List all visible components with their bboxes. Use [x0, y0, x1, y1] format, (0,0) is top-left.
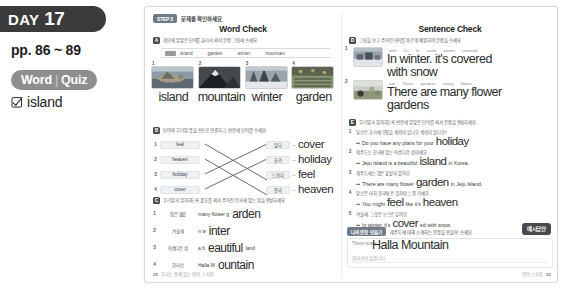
sentence-prefix: many flower g — [198, 211, 229, 217]
section-d-head: D 그림을 보고 주어진 단어를 바르게 배열하여 문장을 쓰세요. — [341, 37, 558, 44]
section-a-instruction: 네모에 알맞은 단어를 골라서 써서 문장 그림에 쓰세요. — [163, 37, 258, 44]
word-quiz-separator: | — [55, 73, 58, 87]
wordbank-word-4: mountain — [265, 51, 285, 56]
word-quiz-word: Word — [21, 73, 52, 87]
handwritten-answer: garden — [416, 176, 449, 188]
english-word-box[interactable]: feel — [160, 141, 200, 149]
writing-rule-line — [352, 262, 548, 263]
english-word-box[interactable]: heaven — [160, 156, 200, 164]
row-number: 1 — [347, 129, 353, 134]
row-number: 3 — [151, 245, 158, 250]
korean-meaning-box[interactable]: 휴가 — [266, 156, 290, 164]
section-c-head: C 우리말과 일치하도록 괄호를 써서 주어진 문자에 맞는 말을 완성하세요. — [145, 197, 341, 204]
my-sentence-box: 나의 문장 만들기 제주도에 대해 소개하는 문장을 만들어 쓰세요. Ther… — [347, 227, 553, 268]
sentence-check-title-wrap: Sentence Check — [341, 24, 558, 34]
quiz-checklist-item[interactable]: island — [11, 94, 62, 110]
sentence-prefix: Halla M — [198, 262, 215, 268]
handwritten-answer: feel — [387, 196, 404, 208]
section-a-head: A 네모에 알맞은 단어를 골라서 써서 문장 그림에 쓰세요. — [145, 37, 341, 44]
sentence-prefix: a b — [198, 245, 205, 251]
my-sentence-tag: 나의 문장 만들기 — [347, 227, 386, 236]
left-page-footer: 25 우리는 함께 읽는 영어 스피킹 — [153, 271, 214, 277]
handwritten-answer: Halla Mountain — [372, 238, 448, 252]
sentence-prefix: n w — [198, 228, 206, 234]
handwritten-answer: ountain — [218, 258, 254, 272]
day-number: 17 — [44, 8, 64, 30]
arrow-icon: ➡ — [356, 181, 360, 187]
sidebar: DAY 17 pp. 86 ~ 89 Word | Quiz island — [0, 0, 140, 288]
section-d-instruction: 그림을 보고 주어진 단어를 바르게 배열하여 문장을 쓰세요. — [359, 37, 462, 44]
korean-meaning-box[interactable]: 덮다 — [266, 141, 290, 149]
matching-row: 2 heaven 휴가 – holiday — [151, 154, 335, 165]
item-number: 1 — [152, 61, 155, 66]
korean-prompt: 당신은 휴가에 무엇을 계획이 있나요 계획이 있나요? — [356, 129, 447, 135]
matching-row: 4 cover 천국 – heaven — [151, 184, 335, 195]
row-number: 1 — [151, 211, 158, 216]
wordbank-word-1: island — [180, 51, 193, 56]
english-word-box[interactable]: cover — [160, 186, 200, 194]
picture-item: 1 island — [151, 62, 196, 104]
day-banner: DAY 17 — [0, 6, 106, 32]
word-quiz-badge[interactable]: Word | Quiz — [11, 70, 97, 90]
section-e: E 우리말과 일치하도록 빈칸에 알맞은 단어를 써서 문장을 완성하세요. 1… — [341, 119, 558, 229]
row-number: 5 — [347, 211, 353, 216]
word-check-title-wrap: Word Check — [145, 24, 341, 34]
flower-garden-photo — [353, 80, 383, 100]
page-number: 25 — [546, 272, 551, 277]
handwritten-answer: holiday — [436, 135, 469, 147]
section-d-marker: D — [349, 37, 356, 44]
english-word-box[interactable]: holiday — [160, 171, 200, 179]
section-e-head: E 우리말과 일치하도록 빈칸에 알맞은 단어를 써서 문장을 완성하세요. — [341, 119, 558, 126]
sentence-check-column: Sentence Check D 그림을 보고 주어진 단어를 바르게 배열하여… — [341, 7, 558, 282]
handwritten-answer-line2: gardens — [387, 99, 502, 112]
my-sentence-instruction: 제주도에 대해 소개하는 문장을 만들어 쓰세요. — [390, 229, 473, 235]
step-korean-label: 문제를 확인하세요 — [181, 15, 223, 23]
korean-meaning-box[interactable]: 천국 — [266, 186, 290, 194]
my-sentence-head: 나의 문장 만들기 제주도에 대해 소개하는 문장을 만들어 쓰세요. — [347, 227, 553, 236]
word-check-column: STEP 3 문제를 확인하세요 Word Check A 네모에 알맞은 단어… — [145, 7, 341, 282]
wordbank-word-3: winter — [238, 51, 251, 56]
page-number: 25 — [153, 272, 158, 277]
item-number: 3 — [246, 61, 249, 66]
section-a: A 네모에 알맞은 단어를 골라서 써서 문장 그림에 쓰세요. island … — [145, 37, 341, 104]
sentence-check-title: Sentence Check — [341, 24, 558, 34]
complete-sentence-row: 2 제주도는 한국에 있는 아름다운 섬이에요. ➡ Jeju Island i… — [341, 147, 558, 168]
answer-word: winter — [245, 90, 290, 104]
quiz-item-label: island — [27, 94, 62, 110]
winter-photo — [245, 66, 288, 89]
sentence-suffix: land — [246, 245, 255, 251]
section-b-marker: B — [153, 127, 160, 134]
item-number: 4 — [292, 61, 295, 66]
fill-blank-row: 2 겨울에 n w inter — [145, 221, 341, 238]
mountain-photo — [198, 66, 241, 89]
section-c-instruction: 우리말과 일치하도록 괄호를 써서 주어진 문자에 맞는 말을 완성하세요. — [163, 197, 286, 204]
section-e-marker: E — [349, 119, 356, 126]
section-b-head: B 단어와 우리말 뜻을 선으로 연결하고, 빈칸에 단어를 쓰세요. — [145, 127, 341, 134]
row-number: 4 — [347, 190, 353, 195]
fill-blank-row: 4 한라산 Halla M ountain — [145, 255, 341, 272]
korean-prompt: 많은 꽃밭 — [161, 211, 195, 217]
item-number: 1 — [345, 46, 348, 51]
checkbox-checked-icon[interactable] — [11, 96, 23, 108]
handwritten-answer: arden — [232, 207, 260, 221]
wordbank-word-2: garden — [208, 51, 223, 56]
row-number: 2 — [151, 228, 158, 233]
handwritten-answer: feel — [298, 169, 315, 180]
korean-meaning-box[interactable]: 느끼다 — [266, 171, 290, 179]
complete-sentence-row: 3 제주도에는 많은 꽃밭이 있어요. ➡ There are many flo… — [341, 167, 558, 188]
dash: – — [290, 187, 298, 193]
item-number: 2 — [345, 79, 348, 84]
writing-area[interactable]: There is/are Halla Mountain 한라산이 있습니다. — [347, 238, 553, 268]
handwritten-answer: cover — [298, 139, 324, 150]
sentence-prefix: There are many flower — [362, 181, 414, 187]
section-a-wordbank: island garden winter mountain — [161, 48, 331, 58]
footer-note: 우리는 함께 읽는 영어 스피킹 — [161, 271, 214, 277]
fill-blank-row: 1 많은 꽃밭 many flower g arden — [145, 204, 341, 221]
sentence-prefix: Jeju Island is a beautiful — [362, 160, 417, 166]
arrow-icon: ➡ — [356, 140, 360, 146]
row-number: 2 — [151, 157, 160, 162]
handwritten-answer: island — [419, 155, 446, 167]
complete-sentence-row: 4 당신은 마치 천국에 온 것처럼 느낄 거예요. ➡ You might f… — [341, 188, 558, 209]
section-e-instruction: 우리말과 일치하도록 빈칸에 알맞은 단어를 써서 문장을 완성하세요. — [359, 119, 477, 126]
korean-prompt: 한라산 — [161, 262, 195, 268]
